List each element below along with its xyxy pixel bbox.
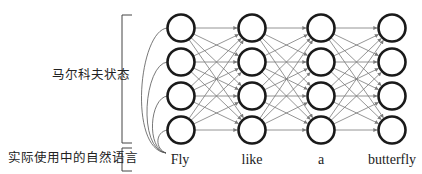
transition-edge [333, 103, 378, 125]
transition-edge [264, 35, 307, 56]
word-fly: Fly [171, 153, 190, 167]
transition-edge [264, 102, 307, 123]
transition-edge [333, 34, 378, 56]
state-node [168, 49, 195, 76]
transition-edge [193, 34, 238, 56]
state-node [379, 49, 406, 76]
state-node [239, 49, 266, 76]
state-node [308, 83, 335, 110]
transition-edge [264, 103, 307, 124]
state-node [168, 117, 195, 144]
markov-diagram [0, 0, 422, 174]
state-node [308, 49, 335, 76]
transition-edge [264, 69, 307, 90]
state-node [379, 83, 406, 110]
brackets [122, 15, 132, 171]
state-node [379, 15, 406, 42]
state-node [239, 15, 266, 42]
transition-edge [333, 68, 378, 90]
transition-edge [264, 34, 307, 55]
transition-edge [333, 102, 378, 124]
state-node [379, 117, 406, 144]
word-state-curve [147, 62, 168, 153]
transition-edge [333, 35, 378, 57]
transition-edge [193, 103, 238, 125]
word-like: like [242, 153, 263, 167]
state-node [168, 15, 195, 42]
markov-states-label: 马尔科夫状态 [52, 69, 130, 82]
word-butterfly: butterfly [368, 153, 416, 167]
transition-edge [193, 102, 238, 124]
transition-edge [193, 68, 238, 90]
transition-edges [189, 28, 384, 130]
word-a: a [318, 153, 324, 167]
word-to-state-curves [141, 28, 167, 153]
natural-language-label: 实际使用中的自然语言 [8, 152, 138, 165]
word-state-curve [152, 96, 167, 153]
state-node [308, 15, 335, 42]
word-state-curve [141, 28, 167, 153]
state-node [168, 83, 195, 110]
state-node [239, 83, 266, 110]
transition-edge [264, 68, 307, 89]
transition-edge [193, 35, 238, 57]
state-node [239, 117, 266, 144]
state-node [308, 117, 335, 144]
